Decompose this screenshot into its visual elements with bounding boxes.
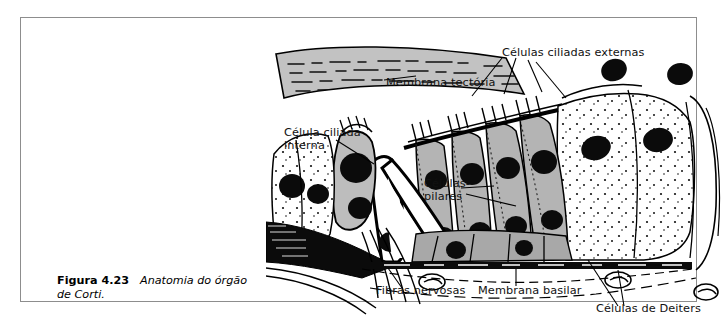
celulas-de-deiters-shape [412,230,572,262]
figure-caption-number: Figura 4.23 [57,274,129,287]
label-celulas-pilares: Células- pilares [424,178,470,204]
figure-panel: Figura 4.23Anatomia do órgão de Corti. [20,17,697,302]
anatomy-svg [266,36,725,320]
membrana-tectoria-shape [276,47,524,98]
organ-of-corti-illustration: Membrana tectória Células ciliadas exter… [266,36,725,320]
label-celula-ciliada-interna: Célula ciliada interna [284,127,361,153]
label-fibras-nervosas: Fibras nervosas [376,285,466,298]
label-celulas-de-deiters: Células de Deiters [596,303,701,316]
figure-caption: Figura 4.23Anatomia do órgão de Corti. [57,274,262,301]
label-celulas-ciliadas-externas: Células ciliadas externas [502,47,645,60]
label-membrana-basilar: Membrana basilar [478,285,582,298]
label-membrana-tectoria: Membrana tectória [386,77,495,90]
organ-of-corti-body [266,55,720,314]
